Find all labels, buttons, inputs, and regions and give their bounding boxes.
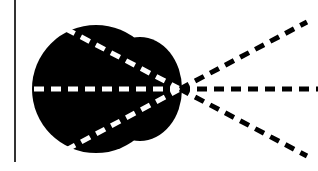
ray-diagram bbox=[0, 0, 318, 171]
outer-dashed-ray bbox=[180, 89, 307, 156]
outer-rays bbox=[180, 22, 318, 156]
outer-dashed-ray bbox=[180, 22, 307, 89]
